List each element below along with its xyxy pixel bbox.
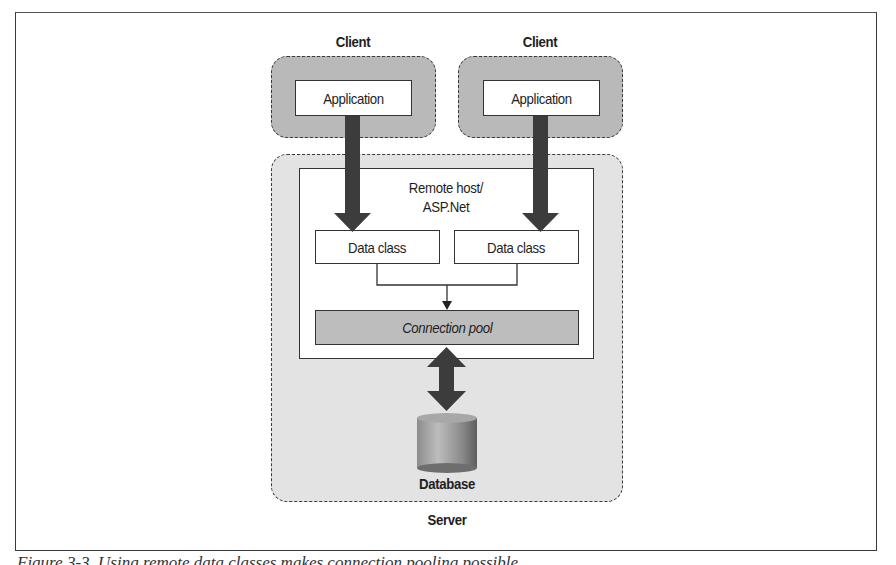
client-label-right: Client [487, 33, 593, 50]
data-class-box-right: Data class [454, 230, 579, 264]
application-box-right: Application [483, 80, 600, 116]
application-label: Application [511, 90, 572, 107]
connection-pool-label: Connection pool [402, 319, 492, 336]
remote-host-title: Remote host/ ASP.Net [358, 178, 534, 216]
connection-pool-box: Connection pool [315, 310, 579, 345]
remote-host-title-line1: Remote host/ [358, 178, 534, 197]
database-label: Database [394, 475, 500, 492]
client-label-left: Client [300, 33, 406, 50]
data-class-label: Data class [487, 239, 545, 256]
figure-caption: Figure 3-3. Using remote data classes ma… [17, 553, 518, 565]
remote-host-title-line2: ASP.Net [358, 197, 534, 216]
server-label: Server [394, 511, 500, 528]
data-class-box-left: Data class [315, 230, 440, 264]
application-label: Application [323, 90, 384, 107]
application-box-left: Application [295, 80, 412, 116]
data-class-label: Data class [348, 239, 406, 256]
